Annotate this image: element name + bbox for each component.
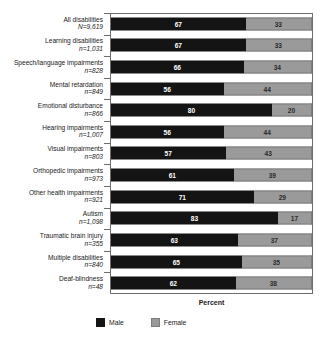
category-name: Mental retardation [0, 81, 103, 89]
category-label: Other health impairmentsn=921 [0, 189, 103, 204]
chart-row: Mental retardationn=8495644 [0, 78, 324, 100]
category-sample-size: n=803 [0, 153, 103, 161]
axis-tick [104, 13, 110, 14]
category-label: Multiple disabilitiesn=840 [0, 254, 103, 269]
category-label: Speech/language impairmentsn=828 [0, 59, 103, 74]
bar-segment-female: 44 [224, 82, 312, 95]
axis-tick [104, 35, 110, 36]
category-label: Hearing impairmentsn=1,007 [0, 124, 103, 139]
bar-segment-male: 83 [111, 212, 278, 225]
stacked-bar: 6733 [111, 39, 312, 52]
axis-tick [104, 164, 110, 165]
bar-segment-male: 67 [111, 17, 246, 30]
stacked-bar: 6535 [111, 255, 312, 268]
legend-item-female[interactable]: Female [151, 318, 187, 327]
chart-row: Hearing impairmentsn=1,0075644 [0, 121, 324, 143]
stacked-bar: 7129 [111, 190, 312, 203]
category-sample-size: n=840 [0, 262, 103, 270]
bar-segment-female: 44 [224, 125, 312, 138]
bar-segment-female: 35 [242, 255, 312, 268]
category-name: Learning disabilities [0, 38, 103, 46]
axis-tick [104, 272, 110, 273]
chart-row: All disabilitiesN=9,6196733 [0, 13, 324, 35]
category-sample-size: n=355 [0, 240, 103, 248]
chart-row: Emotional disturbancen=8668020 [0, 99, 324, 121]
category-sample-size: n=828 [0, 67, 103, 75]
category-sample-size: n=1,098 [0, 218, 103, 226]
category-name: Traumatic brain injury [0, 232, 103, 240]
stacked-bar-chart: All disabilitiesN=9,6196733Learning disa… [0, 0, 324, 339]
stacked-bar: 6238 [111, 277, 312, 290]
category-name: Emotional disturbance [0, 103, 103, 111]
chart-row: Autismn=1,0988317 [0, 208, 324, 230]
category-sample-size: n=1,031 [0, 45, 103, 53]
stacked-bar: 5644 [111, 82, 312, 95]
x-axis-title: Percent [110, 299, 313, 306]
bar-segment-female: 33 [246, 17, 312, 30]
category-sample-size: n=973 [0, 175, 103, 183]
category-label: Visual impairmentsn=803 [0, 146, 103, 161]
category-label: All disabilitiesN=9,619 [0, 16, 103, 31]
axis-tick [104, 99, 110, 100]
axis-tick [104, 121, 110, 122]
axis-tick [104, 56, 110, 57]
category-sample-size: n=866 [0, 110, 103, 118]
bar-segment-female: 20 [272, 104, 312, 117]
bar-segment-male: 62 [111, 277, 236, 290]
stacked-bar: 8317 [111, 212, 312, 225]
category-name: Hearing impairments [0, 124, 103, 132]
category-sample-size: n=48 [0, 283, 103, 291]
category-sample-size: n=921 [0, 197, 103, 205]
axis-tick [104, 251, 110, 252]
stacked-bar: 6733 [111, 17, 312, 30]
chart-row: Orthopedic impairmentsn=9736139 [0, 164, 324, 186]
bar-segment-male: 63 [111, 233, 238, 246]
category-label: Autismn=1,098 [0, 211, 103, 226]
bar-segment-female: 37 [238, 233, 312, 246]
stacked-bar: 8020 [111, 104, 312, 117]
legend-swatch-female-icon [151, 318, 160, 327]
chart-legend: Male Female [96, 318, 186, 327]
chart-row: Traumatic brain injuryn=3556337 [0, 229, 324, 251]
legend-label-female: Female [164, 319, 187, 326]
category-name: Deaf-blindness [0, 276, 103, 284]
bar-segment-male: 80 [111, 104, 272, 117]
bar-segment-female: 17 [278, 212, 312, 225]
chart-row: Other health impairmentsn=9217129 [0, 186, 324, 208]
legend-item-male[interactable]: Male [96, 318, 124, 327]
chart-rows: All disabilitiesN=9,6196733Learning disa… [0, 13, 324, 294]
stacked-bar: 5644 [111, 125, 312, 138]
bar-segment-female: 33 [246, 39, 312, 52]
category-label: Orthopedic impairmentsn=973 [0, 168, 103, 183]
stacked-bar: 5743 [111, 147, 312, 160]
bar-segment-male: 67 [111, 39, 246, 52]
category-name: Speech/language impairments [0, 59, 103, 67]
bar-segment-female: 39 [234, 169, 312, 182]
category-name: Other health impairments [0, 189, 103, 197]
bar-segment-female: 38 [236, 277, 312, 290]
chart-row: Learning disabilitiesn=1,0316733 [0, 35, 324, 57]
bar-segment-male: 56 [111, 125, 224, 138]
bar-segment-male: 61 [111, 169, 234, 182]
stacked-bar: 6634 [111, 61, 312, 74]
bar-segment-male: 57 [111, 147, 226, 160]
category-sample-size: N=9,619 [0, 24, 103, 32]
category-label: Mental retardationn=849 [0, 81, 103, 96]
legend-swatch-male-icon [96, 318, 105, 327]
category-name: Orthopedic impairments [0, 168, 103, 176]
category-label: Emotional disturbancen=866 [0, 103, 103, 118]
chart-row: Visual impairmentsn=8035743 [0, 143, 324, 165]
bar-segment-female: 29 [254, 190, 312, 203]
stacked-bar: 6139 [111, 169, 312, 182]
bar-segment-female: 34 [244, 61, 312, 74]
bar-segment-male: 65 [111, 255, 242, 268]
category-label: Traumatic brain injuryn=355 [0, 232, 103, 247]
axis-tick [104, 143, 110, 144]
category-name: Visual impairments [0, 146, 103, 154]
category-name: Multiple disabilities [0, 254, 103, 262]
chart-row: Speech/language impairmentsn=8286634 [0, 56, 324, 78]
axis-tick [104, 229, 110, 230]
bar-segment-male: 71 [111, 190, 254, 203]
category-label: Deaf-blindnessn=48 [0, 276, 103, 291]
category-sample-size: n=1,007 [0, 132, 103, 140]
